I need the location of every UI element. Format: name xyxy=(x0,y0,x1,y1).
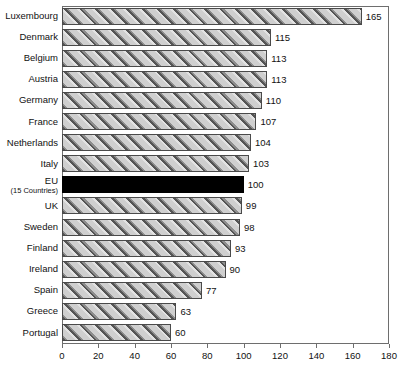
bar xyxy=(62,155,249,172)
category-label: EU(15 Countries) xyxy=(10,176,58,195)
x-axis-tick-label: 0 xyxy=(59,350,64,361)
bar-row: 110 xyxy=(62,92,389,109)
bar-row: 113 xyxy=(62,50,389,67)
x-axis-tick-label: 180 xyxy=(381,350,397,361)
category-label: UK xyxy=(45,201,58,211)
category-label: Portugal xyxy=(23,328,58,338)
x-axis-tick xyxy=(98,344,99,348)
x-axis-tick-label: 80 xyxy=(202,350,213,361)
x-axis-tick-label: 140 xyxy=(308,350,324,361)
x-axis-tick-label: 120 xyxy=(272,350,288,361)
x-axis-tick-label: 40 xyxy=(129,350,140,361)
bar-chart: LuxembourgDenmarkBelgiumAustriaGermanyFr… xyxy=(0,0,401,379)
category-label: Greece xyxy=(27,306,58,316)
bar xyxy=(62,50,267,67)
x-axis-tick xyxy=(244,344,245,348)
bar xyxy=(62,8,362,25)
x-axis: 020406080100120140160180 xyxy=(62,344,389,372)
category-label-text: Luxembourg xyxy=(5,10,58,21)
x-axis-tick xyxy=(62,344,63,348)
bar-value-label: 110 xyxy=(266,95,281,106)
category-sublabel-text: (15 Countries) xyxy=(10,186,58,195)
x-axis-tick-label: 60 xyxy=(166,350,177,361)
bar xyxy=(62,29,271,46)
category-label: Belgium xyxy=(24,53,58,63)
bar-value-label: 60 xyxy=(175,327,186,338)
category-label: Spain xyxy=(34,285,58,295)
bar xyxy=(62,71,267,88)
bar-value-label: 98 xyxy=(244,222,255,233)
category-label: France xyxy=(28,117,58,127)
bar-value-label: 99 xyxy=(246,200,257,211)
category-label-text: Germany xyxy=(19,94,58,105)
bar-row: 99 xyxy=(62,197,389,214)
bar-row: 77 xyxy=(62,282,389,299)
category-label-text: Greece xyxy=(27,305,58,316)
bar-row: 60 xyxy=(62,324,389,341)
bar-row: 103 xyxy=(62,155,389,172)
category-label: Netherlands xyxy=(7,138,58,148)
category-label-text: Finland xyxy=(27,242,58,253)
x-axis-tick xyxy=(316,344,317,348)
x-axis-tick xyxy=(207,344,208,348)
bar xyxy=(62,324,171,341)
bar xyxy=(62,197,242,214)
bar-row: 113 xyxy=(62,71,389,88)
bar-value-label: 103 xyxy=(253,158,269,169)
x-axis-tick-label: 160 xyxy=(345,350,361,361)
bar xyxy=(62,261,226,278)
category-label-text: Italy xyxy=(41,158,58,169)
x-axis-tick xyxy=(353,344,354,348)
bars-container: 1651151131131101071041031009998939077636… xyxy=(62,6,389,344)
bar xyxy=(62,134,251,151)
category-label: Sweden xyxy=(24,222,58,232)
x-axis-tick xyxy=(171,344,172,348)
bar-row: 63 xyxy=(62,303,389,320)
category-label: Luxembourg xyxy=(5,11,58,21)
bar-value-label: 93 xyxy=(235,243,246,254)
bar xyxy=(62,176,244,193)
bar-row: 93 xyxy=(62,240,389,257)
x-axis-tick xyxy=(135,344,136,348)
bar-value-label: 113 xyxy=(271,74,286,85)
category-label-text: France xyxy=(28,116,58,127)
category-label-text: EU xyxy=(45,175,58,186)
category-label-text: Spain xyxy=(34,284,58,295)
bar xyxy=(62,303,176,320)
bar xyxy=(62,282,202,299)
bar-value-label: 113 xyxy=(271,53,286,64)
x-axis-tick xyxy=(389,344,390,348)
category-label: Finland xyxy=(27,243,58,253)
bar-value-label: 107 xyxy=(260,116,276,127)
category-label-text: UK xyxy=(45,200,58,211)
category-label-text: Austria xyxy=(28,73,58,84)
category-label-text: Belgium xyxy=(24,52,58,63)
category-label-text: Sweden xyxy=(24,221,58,232)
x-axis-tick xyxy=(280,344,281,348)
bar-value-label: 90 xyxy=(230,264,241,275)
bar xyxy=(62,219,240,236)
bar-row: 107 xyxy=(62,113,389,130)
bar-value-label: 165 xyxy=(366,11,382,22)
category-label: Austria xyxy=(28,74,58,84)
x-axis-tick-label: 100 xyxy=(236,350,252,361)
category-label-text: Netherlands xyxy=(7,137,58,148)
category-label-text: Denmark xyxy=(19,31,58,42)
bar xyxy=(62,92,262,109)
bar-value-label: 63 xyxy=(180,306,191,317)
bar-row: 165 xyxy=(62,8,389,25)
category-label: Germany xyxy=(19,95,58,105)
category-label-text: Ireland xyxy=(29,263,58,274)
bar xyxy=(62,113,256,130)
category-label: Denmark xyxy=(19,32,58,42)
bar-row: 90 xyxy=(62,261,389,278)
category-label: Italy xyxy=(41,159,58,169)
bar-value-label: 100 xyxy=(248,179,264,190)
bar-row: 98 xyxy=(62,219,389,236)
bar xyxy=(62,240,231,257)
bar-row: 100 xyxy=(62,176,389,193)
bar-row: 104 xyxy=(62,134,389,151)
category-label: Ireland xyxy=(29,264,58,274)
x-axis-tick-label: 20 xyxy=(93,350,104,361)
category-axis-labels: LuxembourgDenmarkBelgiumAustriaGermanyFr… xyxy=(0,0,60,344)
